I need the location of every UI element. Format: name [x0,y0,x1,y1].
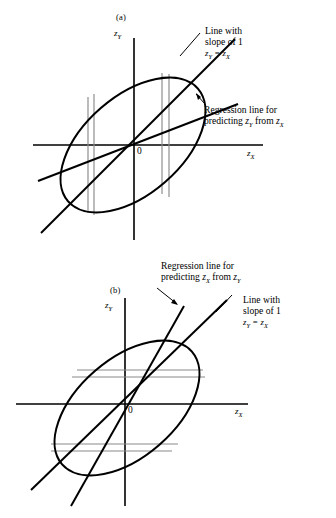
callout-equation: zY = zX [243,317,281,329]
scatter-ellipse-regression-figure: (a) zY zX 0 Line with slope of 1 zY = zX… [0,0,336,518]
panel-a-tag: (a) [116,12,126,22]
callout-line-2: predicting zY from zX [204,115,284,128]
panel-b-regression-callout: Regression line for predicting zX from z… [161,260,241,285]
callout-line-1: Line with [205,25,243,36]
panel-b-x-axis-label: zX [235,406,243,418]
slope-one-line [31,300,227,490]
callout-equation: zY = zX [205,48,243,60]
callout-line-1: Regression line for [161,260,241,271]
panel-b: Regression line for predicting zX from z… [0,258,336,518]
regression-callout-arrow [157,288,178,305]
conditional-band-lines-vertical [88,73,169,215]
panel-a-slope-one-callout: Line with slope of 1 zY = zX [205,25,243,60]
panel-b-y-axis-label: zY [105,300,112,312]
panel-a-graphic [0,0,336,258]
callout-line-2: slope of 1 [243,305,281,316]
slope-one-line [41,39,235,233]
panel-a-regression-callout: Regression line for predicting zY from z… [204,104,284,129]
callout-line-2: slope of 1 [205,36,243,47]
callout-line-2: predicting zX from zY [161,271,241,284]
slope-one-leader [180,33,200,56]
panel-b-origin-label: 0 [128,405,133,416]
slope-one-leader [216,295,232,312]
panel-a-y-axis-label: zY [114,28,121,40]
panel-b-slope-one-callout: Line with slope of 1 zY = zX [243,294,281,329]
panel-a-x-axis-label: zX [247,148,255,160]
panel-b-graphic [0,258,336,518]
callout-line-1: Line with [243,294,281,305]
panel-a-origin-label: 0 [137,146,142,157]
callout-line-1: Regression line for [204,104,284,115]
panel-b-tag: (b) [110,285,121,295]
panel-a: (a) zY zX 0 Line with slope of 1 zY = zX… [0,0,336,258]
